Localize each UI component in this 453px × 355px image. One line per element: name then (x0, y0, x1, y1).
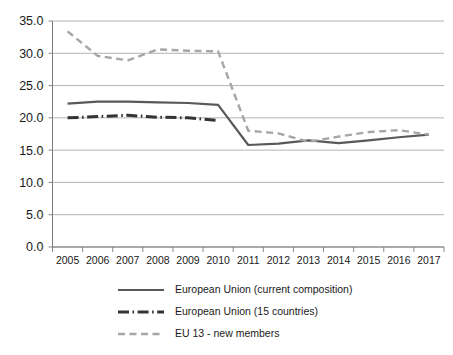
y-tick-label: 0.0 (26, 240, 43, 254)
y-axis (49, 21, 53, 247)
x-axis (53, 247, 445, 252)
x-tick-label: 2017 (417, 254, 441, 266)
x-tick-label: 2011 (237, 254, 260, 266)
line-chart: 0.05.010.015.020.025.030.035.0 200520062… (0, 0, 453, 355)
gridlines (53, 21, 445, 247)
x-tick-label: 2005 (56, 254, 80, 266)
y-tick-label: 10.0 (19, 176, 43, 190)
chart-canvas: 0.05.010.015.020.025.030.035.0 200520062… (0, 0, 453, 355)
x-tick-label: 2009 (176, 254, 200, 266)
y-tick-label: 20.0 (19, 111, 43, 125)
legend-label-1[interactable]: European Union (current composition) (175, 283, 352, 295)
x-tick-label: 2015 (357, 254, 381, 266)
x-tick-label: 2013 (297, 254, 321, 266)
y-tick-label: 25.0 (19, 79, 43, 93)
x-tick-label: 2006 (86, 254, 110, 266)
legend-label-2[interactable]: European Union (15 countries) (175, 305, 318, 317)
x-tick-label: 2012 (267, 254, 291, 266)
legend-label-3[interactable]: EU 13 - new members (175, 327, 279, 339)
data-series (68, 31, 429, 145)
chart-legend: European Union (current composition)Euro… (118, 283, 352, 339)
y-tick-label: 15.0 (19, 144, 43, 158)
y-tick-label: 5.0 (26, 208, 43, 222)
x-tick-label: 2007 (116, 254, 140, 266)
x-axis-tick-labels: 2005200620072008200920102011201220132014… (56, 254, 441, 266)
series-line-3 (68, 31, 429, 141)
x-tick-label: 2008 (146, 254, 170, 266)
x-tick-label: 2016 (387, 254, 411, 266)
x-tick-label: 2010 (206, 254, 230, 266)
series-line-1 (68, 102, 429, 145)
x-tick-label: 2014 (327, 254, 351, 266)
y-axis-tick-labels: 0.05.010.015.020.025.030.035.0 (19, 14, 43, 254)
y-tick-label: 35.0 (19, 14, 43, 28)
y-tick-label: 30.0 (19, 47, 43, 61)
